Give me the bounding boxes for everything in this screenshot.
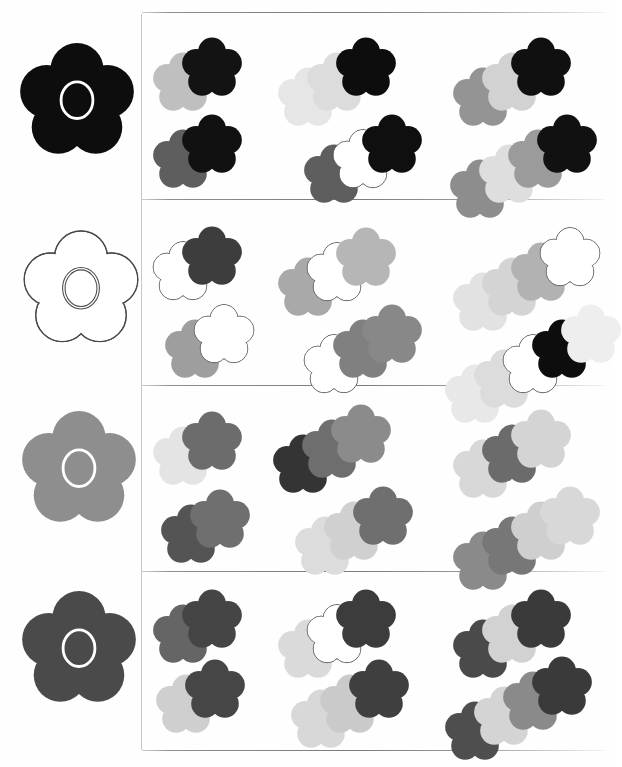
flower-2 bbox=[181, 36, 243, 98]
cluster-r1c1a[interactable] bbox=[152, 36, 243, 113]
flower-3 bbox=[330, 403, 392, 465]
flower-2 bbox=[189, 488, 251, 550]
cluster-r1c3b[interactable] bbox=[449, 113, 598, 220]
flower-2 bbox=[181, 225, 243, 287]
flower-3 bbox=[510, 36, 572, 98]
cluster-r2c1b[interactable] bbox=[164, 303, 255, 380]
flower-3 bbox=[510, 588, 572, 650]
cluster-r3c1b[interactable] bbox=[160, 488, 251, 565]
row-separator-1 bbox=[142, 12, 604, 13]
cluster-r1c1b[interactable] bbox=[152, 113, 243, 190]
reference-flower-black[interactable] bbox=[18, 40, 136, 158]
cluster-r4c1a[interactable] bbox=[152, 588, 243, 665]
flower-4 bbox=[536, 113, 598, 175]
cluster-r3c1a[interactable] bbox=[152, 410, 243, 487]
reference-flower-dark-gray[interactable] bbox=[20, 588, 138, 706]
flower-3 bbox=[335, 226, 397, 288]
reference-flower-white[interactable] bbox=[22, 228, 140, 346]
flower-2 bbox=[193, 303, 255, 365]
flower-3 bbox=[335, 588, 397, 650]
cluster-r3c2a[interactable] bbox=[272, 403, 392, 495]
flower-3 bbox=[361, 113, 423, 175]
flower-2 bbox=[181, 410, 243, 472]
cluster-r3c2b[interactable] bbox=[294, 485, 414, 577]
reference-column-divider bbox=[141, 14, 142, 750]
flower-3 bbox=[352, 485, 414, 547]
cluster-r3c3b[interactable] bbox=[452, 485, 601, 592]
flower-2 bbox=[181, 588, 243, 650]
flower-4 bbox=[539, 226, 601, 288]
reference-flower-mid-gray[interactable] bbox=[20, 408, 138, 526]
flower-3 bbox=[348, 658, 410, 720]
flower-3 bbox=[361, 303, 423, 365]
flower-5 bbox=[560, 303, 622, 365]
flower-3 bbox=[510, 408, 572, 470]
cluster-r4c1b[interactable] bbox=[155, 658, 246, 735]
cluster-r2c1a[interactable] bbox=[152, 225, 243, 302]
flower-4 bbox=[539, 485, 601, 547]
flower-2 bbox=[181, 113, 243, 175]
flower-3 bbox=[335, 36, 397, 98]
flower-2 bbox=[184, 658, 246, 720]
flower-4 bbox=[531, 655, 593, 717]
